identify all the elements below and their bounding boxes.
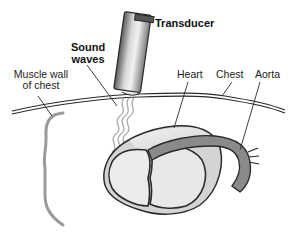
echocardiogram-diagram: Transducer Sound waves Muscle wall of ch… [0, 0, 293, 233]
muscle-wall-shape [44, 113, 63, 225]
chest-wall [12, 93, 285, 114]
label-transducer: Transducer [155, 18, 214, 29]
label-heart: Heart [177, 69, 203, 80]
leader-heart [174, 82, 188, 128]
label-muscle-wall-line2: of chest [10, 80, 72, 91]
label-chest: Chest [216, 69, 243, 80]
transducer-probe [114, 12, 154, 96]
label-sound-waves-line2: waves [68, 54, 108, 65]
leader-chest [222, 82, 232, 96]
label-aorta: Aorta [255, 69, 280, 80]
leader-aorta [240, 82, 260, 150]
diagram-graphic [0, 0, 293, 233]
label-sound-waves-line1: Sound [68, 42, 108, 53]
